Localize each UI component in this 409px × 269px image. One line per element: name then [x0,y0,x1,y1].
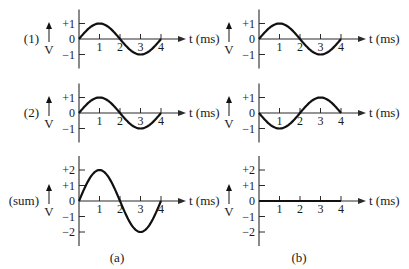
plot4-x-tick-label: 3 [318,114,324,128]
plot2-y-label: V [224,42,234,57]
caption-b: (b) [291,250,306,265]
plot3-y-label: V [44,116,54,131]
plot4-x-tick-label: 4 [338,114,344,128]
plot3-y-tick-label: +1 [62,91,75,105]
wave-superposition-figure: (a) (b) t (ms)1234+10−1V(1)t (ms)1234+10… [0,0,409,269]
plot4-y-tick-label: −1 [242,122,255,136]
plot2-y-tick-label: 0 [249,32,255,46]
plot5-y-tick-label: −2 [62,225,75,239]
plot1-x-tick-label: 3 [138,40,144,54]
plot3-y-tick-label: 0 [69,106,75,120]
plot5-y-tick-label: +2 [62,163,75,177]
plot2-x-tick-label: 3 [318,40,324,54]
plot5-x-tick-label: 3 [138,202,144,216]
plot1-y-tick-label: +1 [62,17,75,31]
plot4-y-tick-label: +1 [242,91,255,105]
plot3-x-arrowhead [178,110,186,116]
plot6-y-tick-label: −2 [242,225,255,239]
plot6-x-tick-label: 2 [297,202,303,216]
plot4-x-tick-label: 1 [277,114,283,128]
plot2-x-arrowhead [358,36,366,42]
plot3-y-tick-label: −1 [62,122,75,136]
plot1-row-label: (1) [24,31,39,46]
plot5-row-label: (sum) [9,193,39,208]
plot2-x-label: t (ms) [369,31,400,46]
plot5-y-tick-label: +1 [62,179,75,193]
plot4-y-label: V [224,116,234,131]
plot6-x-label: t (ms) [369,193,400,208]
plot3-x-tick-label: 3 [138,114,144,128]
plot3-v-arrow-up-icon [46,96,52,103]
plot4-x-arrowhead [358,110,366,116]
plot1-x-tick-label: 1 [97,40,103,54]
plot5-x-arrowhead [178,198,186,204]
plot6-y-tick-label: +1 [242,179,255,193]
plot5-y-tick-label: 0 [69,194,75,208]
plot6-x-tick-label: 1 [277,202,283,216]
plot2-x-tick-label: 1 [277,40,283,54]
plot3-row-label: (2) [24,105,39,120]
plot6-y-tick-label: +2 [242,163,255,177]
plot6-y-tick-label: −1 [242,210,255,224]
plot5-v-arrow-up-icon [46,184,52,191]
plot1-y-tick-label: 0 [69,32,75,46]
plot6-v-arrow-up-icon [226,184,232,191]
plot4-v-arrow-up-icon [226,96,232,103]
plot4-x-label: t (ms) [369,105,400,120]
plot3-x-label: t (ms) [189,105,220,120]
plot2-y-tick-label: +1 [242,17,255,31]
plot1-y-label: V [44,42,54,57]
plot6-x-arrowhead [358,198,366,204]
plot2-v-arrow-up-icon [226,22,232,29]
plot6-x-tick-label: 4 [338,202,344,216]
plot1-y-tick-label: −1 [62,48,75,62]
plot6-y-tick-label: 0 [249,194,255,208]
plot1-v-arrow-up-icon [46,22,52,29]
plot3-x-tick-label: 1 [97,114,103,128]
plot6-y-label: V [224,204,234,219]
plot6-x-tick-label: 3 [318,202,324,216]
plot5-x-label: t (ms) [189,193,220,208]
caption-a: (a) [110,250,124,265]
plot1-x-label: t (ms) [189,31,220,46]
plot5-x-tick-label: 1 [97,202,103,216]
plot5-y-label: V [44,204,54,219]
plot5-y-tick-label: −1 [62,210,75,224]
plot4-y-tick-label: 0 [249,106,255,120]
plot1-x-arrowhead [178,36,186,42]
plot2-y-tick-label: −1 [242,48,255,62]
